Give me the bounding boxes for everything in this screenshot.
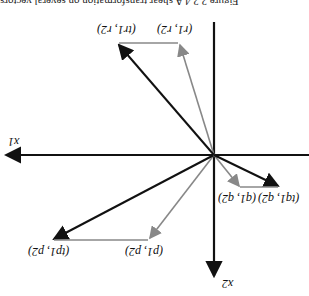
vector-tp	[54, 155, 214, 239]
point-label-tr: (tr1, r2)	[97, 24, 136, 36]
vector-r	[180, 45, 214, 155]
figure-caption: Figure 2.2.4 A shear transformation on s…	[0, 0, 309, 8]
x2-axis-label: x2	[222, 278, 233, 290]
vector-tr	[119, 45, 214, 155]
point-label-tq: (tq1, q2)	[258, 193, 299, 205]
x1-axis-label: x1	[8, 136, 19, 148]
point-label-p: (p1, p2)	[125, 246, 163, 258]
vector-tq	[214, 155, 278, 186]
vector-q	[214, 155, 239, 186]
point-label-q: (q1, q2)	[218, 193, 256, 205]
point-label-tp: (tp1, p2)	[28, 246, 69, 258]
vector-p	[150, 155, 214, 238]
point-label-r: (r1, r2)	[157, 24, 192, 36]
shear-transformation-diagram: Figure 2.2.4 A shear transformation on s…	[0, 0, 309, 296]
